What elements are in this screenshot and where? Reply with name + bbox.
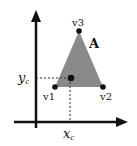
vertex-v3-dot — [76, 28, 82, 34]
centroid-diagram: v3 v1 v2 A yc xc — [0, 0, 137, 146]
centroid-dot — [68, 75, 75, 82]
label-xc: xc — [63, 126, 74, 142]
label-triangle-a: A — [88, 36, 100, 51]
vertex-v2-dot — [100, 84, 106, 90]
vertex-v1-dot — [52, 84, 58, 90]
diagram-canvas: v3 v1 v2 A yc xc — [0, 0, 137, 146]
label-yc: yc — [17, 70, 29, 86]
label-v3: v3 — [71, 17, 84, 28]
label-v2: v2 — [99, 91, 112, 102]
label-v1: v1 — [42, 91, 55, 102]
x-axis-arrow-icon — [116, 117, 128, 127]
y-axis-arrow-icon — [31, 10, 41, 22]
